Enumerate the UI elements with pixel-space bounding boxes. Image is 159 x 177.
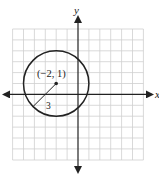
x-axis-label: x [154,88,159,100]
radius-segment [33,84,56,107]
center-label: (−2, 1) [37,68,66,80]
y-axis-label: y [73,4,79,16]
radius-label: 3 [46,101,51,111]
coordinate-plane: y x (−2, 1) 3 [0,0,159,177]
